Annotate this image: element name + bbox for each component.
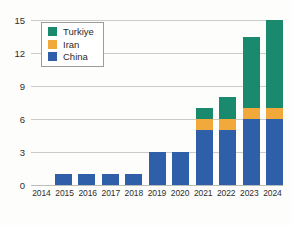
bar-segment-china	[78, 174, 95, 185]
x-tick-label: 2023	[239, 188, 260, 198]
y-axis: 03691215	[0, 20, 27, 185]
bar-column	[266, 20, 283, 185]
bar-stack	[243, 37, 260, 186]
legend-item-china[interactable]: China	[48, 52, 94, 62]
bar-column	[125, 20, 142, 185]
bar-column	[196, 20, 213, 185]
legend-swatch-iran	[48, 40, 57, 49]
y-tick-label: 12	[14, 48, 25, 59]
bar-stack	[219, 97, 236, 185]
x-tick-label: 2017	[100, 188, 121, 198]
bar-segment-china	[243, 119, 260, 185]
legend-swatch-turkiye	[48, 27, 57, 36]
y-tick-label: 15	[14, 15, 25, 26]
legend-item-turkiye[interactable]: Turkiye	[48, 27, 94, 37]
x-tick-label: 2019	[146, 188, 167, 198]
bar-stack	[266, 20, 283, 185]
x-tick-label: 2018	[123, 188, 144, 198]
bar-segment-iran	[266, 108, 283, 119]
bar-column	[219, 20, 236, 185]
bar-column	[172, 20, 189, 185]
bar-segment-iran	[243, 108, 260, 119]
x-axis: 2014201520162017201820192020202120222023…	[31, 188, 283, 198]
x-tick-label: 2014	[31, 188, 52, 198]
bar-segment-china	[125, 174, 142, 185]
y-tick-label: 3	[20, 147, 25, 158]
bar-segment-iran	[196, 119, 213, 130]
bar-column	[243, 20, 260, 185]
bar-segment-turkiye	[219, 97, 236, 119]
bar-segment-china	[219, 130, 236, 185]
y-tick-label: 6	[20, 114, 25, 125]
bar-segment-china	[266, 119, 283, 185]
bar-stack	[55, 174, 72, 185]
legend-item-label: Turkiye	[63, 27, 94, 37]
bar-segment-china	[55, 174, 72, 185]
legend-swatch-china	[48, 52, 57, 61]
bar-stack	[125, 174, 142, 185]
legend-item-label: China	[63, 52, 88, 62]
x-tick-label: 2022	[216, 188, 237, 198]
bar-segment-turkiye	[243, 37, 260, 109]
bar-segment-iran	[219, 119, 236, 130]
legend-item-label: Iran	[63, 40, 79, 50]
chart-legend: TurkiyeIranChina	[41, 22, 104, 67]
y-tick-label: 0	[20, 180, 25, 191]
gridline-0	[31, 185, 283, 186]
bar-segment-china	[149, 152, 166, 185]
legend-item-iran[interactable]: Iran	[48, 40, 94, 50]
y-tick-label: 9	[20, 81, 25, 92]
x-tick-label: 2020	[170, 188, 191, 198]
x-tick-label: 2016	[77, 188, 98, 198]
bar-segment-china	[102, 174, 119, 185]
x-tick-label: 2021	[193, 188, 214, 198]
bar-segment-turkiye	[196, 108, 213, 119]
bar-column	[149, 20, 166, 185]
bar-stack	[149, 152, 166, 185]
x-tick-label: 2024	[262, 188, 283, 198]
bar-stack	[78, 174, 95, 185]
bar-stack	[172, 152, 189, 185]
x-tick-label: 2015	[54, 188, 75, 198]
bar-segment-turkiye	[266, 20, 283, 108]
stacked-bar-chart: 03691215 2014201520162017201820192020202…	[0, 0, 292, 225]
bar-column	[102, 20, 119, 185]
bar-stack	[196, 108, 213, 185]
bar-segment-china	[196, 130, 213, 185]
bar-segment-china	[172, 152, 189, 185]
bar-stack	[102, 174, 119, 185]
